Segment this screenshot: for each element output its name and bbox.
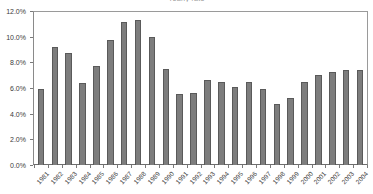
x-tick-mark [173, 165, 174, 168]
bar [107, 11, 114, 165]
x-tick-mark [339, 165, 340, 168]
bar [218, 11, 225, 165]
bar-rect [260, 89, 267, 165]
x-tick-mark [298, 165, 299, 168]
y-tick-mark [30, 165, 33, 166]
bar-rect [274, 104, 281, 165]
bar [260, 11, 267, 165]
bar [52, 11, 59, 165]
bar [287, 11, 294, 165]
x-tick-mark [256, 165, 257, 168]
x-tick-label: 2000 [299, 170, 314, 185]
x-tick-mark [353, 165, 354, 168]
bar-rect [301, 82, 308, 165]
x-tick-label: 1990 [160, 170, 175, 185]
x-tick-mark [242, 165, 243, 168]
bar-series [34, 11, 367, 165]
bar-rect [38, 89, 45, 165]
x-tick-label: 1992 [188, 170, 203, 185]
chart-title: Yearly rate [0, 0, 373, 2]
bar [149, 11, 156, 165]
x-tick-mark [90, 165, 91, 168]
bar [315, 11, 322, 165]
bar-rect [218, 82, 225, 165]
x-tick-mark [76, 165, 77, 168]
bar-rect [65, 53, 72, 165]
y-tick-label: 6.0% [10, 85, 26, 92]
bar [176, 11, 183, 165]
x-tick-mark [145, 165, 146, 168]
bar [121, 11, 128, 165]
x-tick-label: 1995 [229, 170, 244, 185]
x-tick-mark [325, 165, 326, 168]
y-tick-label: 8.0% [10, 59, 26, 66]
bar [204, 11, 211, 165]
bar-rect [287, 98, 294, 165]
bar-rect [121, 22, 128, 165]
x-tick-mark [131, 165, 132, 168]
y-tick-label: 2.0% [10, 136, 26, 143]
bar [232, 11, 239, 165]
bar [79, 11, 86, 165]
bar-rect [79, 83, 86, 165]
x-tick-mark [228, 165, 229, 168]
chart-screenshot: Yearly rate 0.0%2.0%4.0%6.0%8.0%10.0%12.… [0, 0, 373, 194]
x-tick-label: 2001 [313, 170, 328, 185]
x-tick-label: 1982 [49, 170, 64, 185]
bar-rect [204, 80, 211, 165]
bar [343, 11, 350, 165]
bar-rect [232, 87, 239, 165]
bar-rect [93, 66, 100, 165]
x-tick-label: 1991 [174, 170, 189, 185]
x-tick-mark [312, 165, 313, 168]
x-tick-label: 1988 [132, 170, 147, 185]
x-tick-label: 1999 [285, 170, 300, 185]
bar-rect [135, 20, 142, 165]
x-tick-label: 1998 [271, 170, 286, 185]
x-tick-label: 1989 [146, 170, 161, 185]
bar [329, 11, 336, 165]
y-tick-label: 4.0% [10, 110, 26, 117]
bar [246, 11, 253, 165]
y-axis: 0.0%2.0%4.0%6.0%8.0%10.0%12.0% [0, 0, 31, 194]
x-tick-mark [159, 165, 160, 168]
bar-rect [343, 70, 350, 165]
bar-rect [357, 70, 364, 165]
x-tick-mark [103, 165, 104, 168]
bar [135, 11, 142, 165]
bar-rect [149, 37, 156, 165]
x-tick-mark [201, 165, 202, 168]
x-tick-label: 1981 [35, 170, 50, 185]
bar-rect [163, 69, 170, 165]
x-tick-label: 1985 [91, 170, 106, 185]
x-tick-mark [34, 165, 35, 168]
y-tick-label: 10.0% [6, 33, 26, 40]
x-tick-label: 1984 [77, 170, 92, 185]
bar-rect [190, 93, 197, 166]
bar [163, 11, 170, 165]
x-tick-mark [367, 165, 368, 168]
x-tick-mark [62, 165, 63, 168]
x-tick-label: 1996 [243, 170, 258, 185]
x-tick-mark [187, 165, 188, 168]
bar [190, 11, 197, 165]
bar-rect [315, 75, 322, 165]
x-tick-mark [270, 165, 271, 168]
x-tick-label: 2003 [340, 170, 355, 185]
x-tick-label: 1994 [215, 170, 230, 185]
x-tick-mark [117, 165, 118, 168]
bar-rect [52, 47, 59, 165]
x-tick-label: 2002 [326, 170, 341, 185]
bar [274, 11, 281, 165]
bar [301, 11, 308, 165]
bar-rect [329, 72, 336, 165]
bar [357, 11, 364, 165]
x-tick-label: 1987 [118, 170, 133, 185]
x-tick-label: 1986 [104, 170, 119, 185]
bar [38, 11, 45, 165]
bar [65, 11, 72, 165]
x-tick-mark [214, 165, 215, 168]
x-tick-mark [284, 165, 285, 168]
x-axis: 1981198219831984198519861987198819891990… [34, 165, 367, 194]
x-tick-label: 1983 [63, 170, 78, 185]
